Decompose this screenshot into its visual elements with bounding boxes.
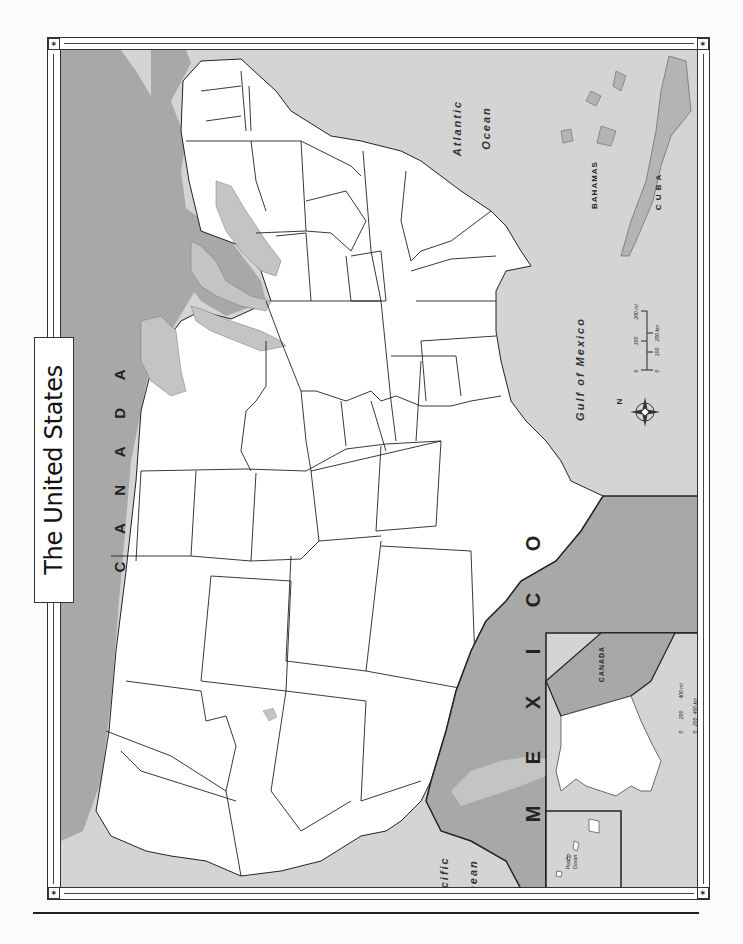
label-bahamas: BAHAMAS — [590, 161, 599, 209]
corner-ornament-top-left: ✶ — [48, 38, 60, 50]
label-compass-north: N — [615, 398, 624, 405]
inset-scale-mi-400: 400 mi — [678, 683, 684, 698]
corner-ornament-bottom-right: ✶ — [697, 887, 709, 899]
label-cuba: C U B A — [654, 174, 663, 210]
label-pacific-ocean-1: Pacific — [438, 856, 450, 888]
frame-rule-bottom — [64, 893, 694, 894]
label-pacific-ocean-2: Ocean — [467, 859, 479, 888]
label-gulf-of-mexico: Gulf of Mexico — [574, 317, 586, 421]
label-canada: C A N A D A — [111, 357, 128, 572]
scale-km-200: 200 km — [654, 325, 660, 341]
page-footer-rule — [33, 912, 699, 914]
page-title: The United States — [40, 365, 68, 575]
scale-mi-200: 200 mi — [633, 304, 639, 319]
corner-ornament-top-right: ✶ — [697, 38, 709, 50]
scale-km-0: 0 — [654, 370, 660, 373]
scale-mi-100: 100 — [633, 337, 639, 345]
label-hawaii-ocean-2: Ocean — [572, 855, 578, 870]
label-atlantic-ocean-1: Atlantic — [451, 100, 463, 156]
corner-ornament-bottom-left: ✶ — [48, 887, 60, 899]
label-mexico: M E X I C O — [522, 518, 545, 823]
map-graphic — [61, 50, 698, 888]
inset-scale-km-0: 0 — [692, 731, 698, 734]
scale-km-100: 100 — [654, 348, 660, 356]
inset-scale-mi-0: 0 — [678, 731, 684, 734]
frame-rule-right — [703, 54, 704, 884]
scale-mi-0: 0 — [633, 370, 639, 373]
inset-scale-mi-200: 200 — [678, 711, 684, 719]
label-hawaii-ocean-1: Pacific — [565, 855, 571, 870]
title-box: The United States — [34, 337, 74, 603]
label-inset-canada: CANADA — [598, 646, 605, 682]
inset-scale-km-400: 400 km — [692, 698, 698, 714]
inset-scale-km-200: 200 — [692, 718, 698, 726]
map-canvas: C A N A D A M E X I C O Atlantic Ocean P… — [60, 49, 698, 888]
label-atlantic-ocean-2: Ocean — [480, 106, 492, 150]
frame-rule-top — [64, 43, 694, 44]
